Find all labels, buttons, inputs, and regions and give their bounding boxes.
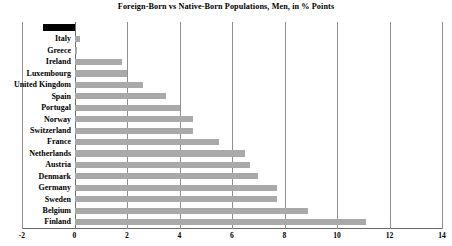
bar-rows: USItalyGreeceIrelandLuxembourgUnited Kin…: [0, 22, 452, 228]
category-label-greece: Greece: [47, 45, 71, 56]
bar-row: Ireland: [0, 56, 452, 67]
bar-norway: [75, 116, 193, 122]
bar-row: France: [0, 136, 452, 147]
bar-row: Norway: [0, 114, 452, 125]
x-tick-6: 6: [230, 231, 234, 240]
category-label-denmark: Denmark: [39, 171, 71, 182]
bar-row: United Kingdom: [0, 79, 452, 90]
bar-row: Switzerland: [0, 125, 452, 136]
x-tick-10: 10: [333, 231, 341, 240]
category-label-italy: Italy: [55, 33, 71, 44]
bar-sweden: [75, 196, 277, 202]
bar-us: [43, 24, 75, 31]
category-label-france: France: [47, 136, 71, 147]
category-label-portugal: Portugal: [41, 102, 71, 113]
bar-spain: [75, 93, 167, 99]
bar-netherlands: [75, 150, 246, 156]
chart-title: Foreign-Born vs Native-Born Populations,…: [0, 2, 452, 11]
x-tick-14: 14: [438, 231, 446, 240]
category-label-ireland: Ireland: [46, 56, 71, 67]
bar-austria: [75, 162, 251, 168]
bar-finland: [75, 219, 366, 225]
category-label-germany: Germany: [39, 182, 71, 193]
category-label-norway: Norway: [44, 114, 71, 125]
x-tick-4: 4: [178, 231, 182, 240]
bar-united-kingdom: [75, 82, 143, 88]
bar-greece: [75, 47, 78, 53]
bar-row: Italy: [0, 33, 452, 44]
bar-switzerland: [75, 128, 193, 134]
bar-row: Denmark: [0, 171, 452, 182]
bar-row: US: [0, 22, 452, 33]
category-label-luxembourg: Luxembourg: [27, 68, 71, 79]
bar-row: Germany: [0, 182, 452, 193]
bar-france: [75, 139, 219, 145]
bar-row: Spain: [0, 91, 452, 102]
x-tick-12: 12: [386, 231, 394, 240]
category-label-united-kingdom: United Kingdom: [14, 79, 71, 90]
category-label-finland: Finland: [44, 216, 71, 227]
category-label-spain: Spain: [51, 91, 71, 102]
bar-row: Greece: [0, 45, 452, 56]
bar-row: Netherlands: [0, 148, 452, 159]
bar-row: Luxembourg: [0, 68, 452, 79]
category-label-netherlands: Netherlands: [29, 148, 71, 159]
bar-portugal: [75, 105, 180, 111]
bar-chart: Foreign-Born vs Native-Born Populations,…: [0, 0, 452, 246]
category-label-austria: Austria: [45, 159, 71, 170]
bar-belgium: [75, 208, 309, 214]
bar-denmark: [75, 173, 259, 179]
bar-row: Austria: [0, 159, 452, 170]
bar-row: Portugal: [0, 102, 452, 113]
bar-germany: [75, 185, 277, 191]
x-axis-tick-labels: -202468101214: [0, 231, 452, 243]
x-tick-8: 8: [283, 231, 287, 240]
category-label-switzerland: Switzerland: [30, 125, 71, 136]
x-tick-2: 2: [125, 231, 129, 240]
bar-row: Sweden: [0, 194, 452, 205]
bar-row: Belgium: [0, 205, 452, 216]
x-tick-0: 0: [73, 231, 77, 240]
bar-ireland: [75, 59, 122, 65]
x-tick--2: -2: [19, 231, 25, 240]
bar-luxembourg: [75, 70, 128, 76]
bar-italy: [75, 36, 80, 42]
category-label-belgium: Belgium: [43, 205, 71, 216]
bar-row: Finland: [0, 216, 452, 227]
category-label-sweden: Sweden: [45, 194, 71, 205]
